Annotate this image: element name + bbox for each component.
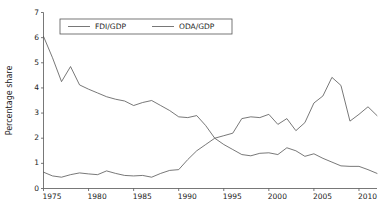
y-tick-label: 4: [34, 83, 39, 92]
chart-container: 0123456719751980198519901995200020052010…: [0, 0, 384, 218]
legend-label-oda-gdp: ODA/GDP: [179, 22, 215, 31]
x-tick-label: 2010: [358, 192, 377, 201]
y-tick-label: 5: [34, 58, 39, 67]
x-tick-label: 2005: [313, 192, 332, 201]
y-tick-label: 2: [34, 133, 39, 142]
y-tick-label: 6: [34, 33, 39, 42]
x-tick-label: 1975: [43, 192, 62, 201]
y-tick-label: 1: [34, 158, 39, 167]
series-line-oda-gdp: [44, 36, 378, 173]
y-tick-label: 3: [34, 108, 39, 117]
x-tick-label: 2000: [268, 192, 287, 201]
x-tick-label: 1985: [133, 192, 152, 201]
x-tick-label: 1990: [178, 192, 197, 201]
x-tick-label: 1995: [223, 192, 242, 201]
x-tick-label: 1980: [88, 192, 107, 201]
series-line-fdi-gdp: [44, 77, 378, 177]
y-tick-label: 7: [34, 8, 39, 17]
y-tick-label: 0: [34, 184, 39, 193]
y-axis-title: Percentage share: [5, 66, 14, 136]
line-chart: 0123456719751980198519901995200020052010…: [0, 0, 384, 218]
legend-label-fdi-gdp: FDI/GDP: [95, 22, 126, 31]
